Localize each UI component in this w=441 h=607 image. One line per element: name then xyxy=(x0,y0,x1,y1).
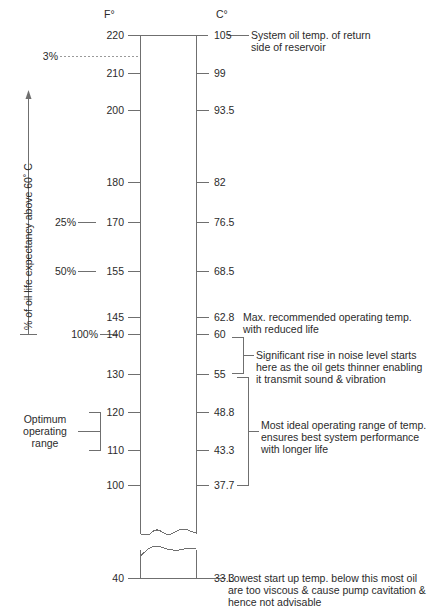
tick-label-f-210: 210 xyxy=(88,67,124,79)
annotation-max-recommended: Max. recommended operating temp. with re… xyxy=(243,311,412,335)
percent-label-3: 3% xyxy=(24,50,58,62)
annotation-noise-rise: Significant rise in noise level starts h… xyxy=(256,349,422,386)
tick-label-c-93-5: 93.5 xyxy=(214,104,254,116)
tick-label-f-170: 170 xyxy=(88,216,124,228)
tick-label-f-100: 100 xyxy=(88,479,124,491)
tick-label-c-76-5: 76.5 xyxy=(214,216,254,228)
annotation-lowest-temp: Lowest start up temp. below this most oi… xyxy=(228,572,426,607)
tick-label-c-82: 82 xyxy=(214,176,254,188)
tick-label-f-220: 220 xyxy=(88,29,124,41)
percent-label-25: 25% xyxy=(42,216,76,228)
tick-label-f-120: 120 xyxy=(88,406,124,418)
tick-label-c-99: 99 xyxy=(214,67,254,79)
annotation-return-temp: System oil temp. of return side of reser… xyxy=(251,29,371,53)
tick-label-f-40: 40 xyxy=(88,572,124,584)
tick-label-c-105: 105 xyxy=(214,29,254,41)
tick-label-f-145: 145 xyxy=(88,311,124,323)
scale-header-celsius: C° xyxy=(216,8,228,20)
oil-life-axis-title: % of oil life expectancy above 60˚ C xyxy=(22,163,34,330)
scale-header-fahrenheit: F° xyxy=(104,8,115,20)
oil-temperature-scale-diagram: F° C° % of oil life expectancy above 60˚… xyxy=(0,0,441,607)
percent-label-50: 50% xyxy=(42,265,76,277)
tick-label-f-130: 130 xyxy=(88,368,124,380)
optimum-range-label: Optimum operating range xyxy=(12,413,78,450)
tick-label-f-180: 180 xyxy=(88,176,124,188)
annotation-ideal-range: Most ideal operating range of temp. ensu… xyxy=(261,419,426,456)
tick-label-c-55: 55 xyxy=(214,368,254,380)
tick-label-c-68-5: 68.5 xyxy=(214,265,254,277)
tick-label-c-48-8: 48.8 xyxy=(214,406,254,418)
tick-label-c-43-3: 43.3 xyxy=(214,444,254,456)
tick-label-f-110: 110 xyxy=(88,444,124,456)
tick-label-f-155: 155 xyxy=(88,265,124,277)
tick-label-c-37-7: 37.7 xyxy=(214,479,254,491)
diagram-lines xyxy=(0,0,441,607)
break-line-lower xyxy=(141,546,197,556)
percent-label-100: 100% xyxy=(56,328,98,340)
break-line-upper xyxy=(141,529,197,534)
tick-label-f-200: 200 xyxy=(88,104,124,116)
oil-life-axis-arrow xyxy=(26,90,32,99)
